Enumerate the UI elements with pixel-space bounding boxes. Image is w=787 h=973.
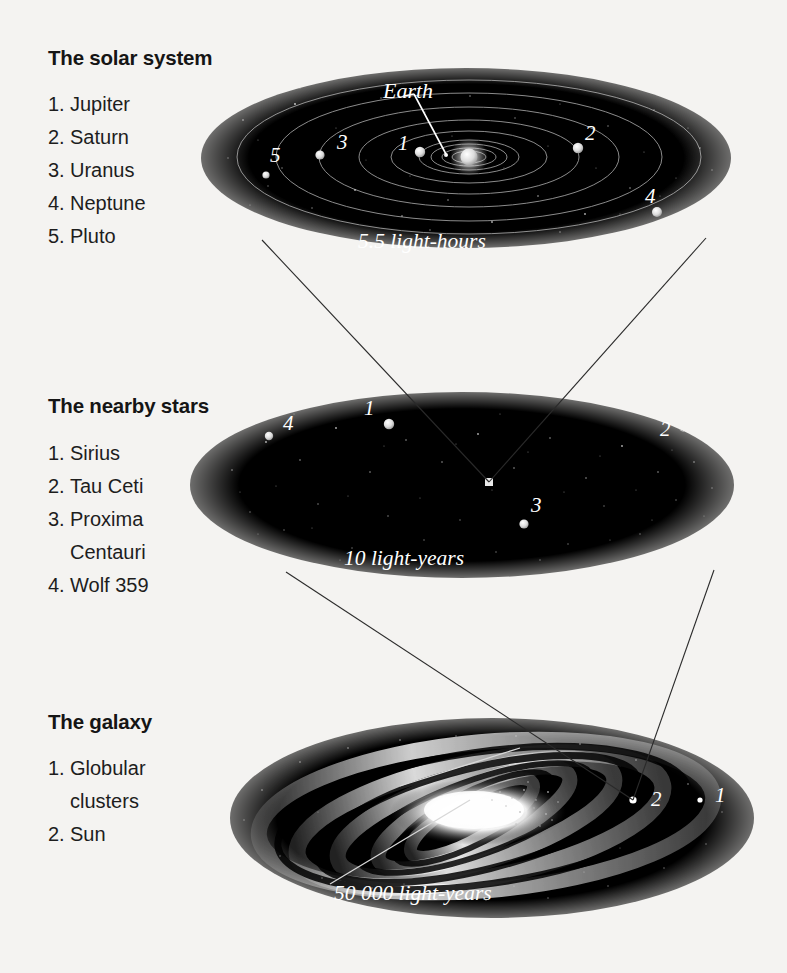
nearby-stars-scale-label: 10 light-years (344, 546, 464, 570)
panel-title-nearby-stars: The nearby stars (48, 394, 209, 418)
panel-title-solar-system: The solar system (48, 46, 212, 70)
svg-text:1: 1 (715, 783, 726, 807)
planet-jupiter (415, 147, 425, 157)
list-item: 3. Uranus (48, 154, 146, 187)
legend-number: 5. (48, 220, 70, 253)
legend-number: 1. (48, 437, 70, 470)
legend-label: Neptune (70, 187, 146, 220)
legend-label: Sirius (70, 437, 120, 470)
legend-label: Saturn (70, 121, 129, 154)
panel-nearby-stars-art: 1 4 2 3 10 light-years (190, 392, 734, 578)
planet-pluto (262, 171, 269, 178)
list-item: 2. Tau Ceti (48, 470, 149, 503)
svg-text:2: 2 (660, 417, 671, 441)
svg-text:3: 3 (336, 130, 348, 154)
legend-number: 1. (48, 752, 70, 785)
solar-system-scale-label: 5.5 light-hours (358, 229, 486, 253)
star-proxima-centauri (519, 519, 528, 528)
legend-label: Tau Ceti (70, 470, 143, 503)
list-item: 5. Pluto (48, 220, 146, 253)
panel-galaxy-art: 2 1 50 000 light-years (230, 718, 754, 918)
svg-text:4: 4 (645, 184, 656, 208)
legend-number: 2. (48, 470, 70, 503)
legend-number: 4. (48, 569, 70, 602)
svg-text:1: 1 (398, 131, 409, 155)
legend-number: 3. (48, 503, 70, 536)
planet-saturn (573, 143, 583, 153)
earth-label: Earth (382, 78, 433, 103)
list-item: 2. Sun (48, 818, 146, 851)
star-wolf-359 (265, 432, 273, 440)
list-item: 2. Saturn (48, 121, 146, 154)
legend-label-continuation: Centauri (48, 536, 149, 569)
panel-title-galaxy: The galaxy (48, 710, 152, 734)
planet-neptune (652, 207, 662, 217)
star-tau-ceti (679, 422, 689, 432)
galaxy-scale-label: 50 000 light-years (334, 881, 492, 905)
legend-label: Uranus (70, 154, 134, 187)
legend-label: Pluto (70, 220, 116, 253)
sun-sphere (461, 149, 478, 166)
diagram-canvas: 5 3 1 2 4 Earth 5.5 light-hours (0, 0, 787, 973)
svg-text:3: 3 (530, 493, 542, 517)
legend-galaxy: 1. Globular clusters 2. Sun (48, 752, 146, 851)
panel-solar-system-art: 5 3 1 2 4 Earth 5.5 light-hours (201, 68, 731, 253)
planet-uranus (315, 150, 324, 159)
list-item: 1. Sirius (48, 437, 149, 470)
star-sirius (384, 419, 394, 429)
svg-text:5: 5 (270, 143, 281, 167)
legend-number: 1. (48, 88, 70, 121)
list-item: 4. Neptune (48, 187, 146, 220)
legend-label: Proxima (70, 503, 143, 536)
svg-text:2: 2 (651, 787, 662, 811)
legend-number: 4. (48, 187, 70, 220)
legend-number: 3. (48, 154, 70, 187)
legend-solar-system: 1. Jupiter 2. Saturn 3. Uranus 4. Neptun… (48, 88, 146, 253)
legend-label: Globular (70, 752, 146, 785)
svg-text:1: 1 (364, 396, 375, 420)
legend-label: Wolf 359 (70, 569, 149, 602)
legend-number: 2. (48, 818, 70, 851)
legend-label-continuation: clusters (48, 785, 146, 818)
legend-number: 2. (48, 121, 70, 154)
svg-text:4: 4 (283, 411, 294, 435)
svg-text:2: 2 (585, 121, 596, 145)
legend-label: Jupiter (70, 88, 130, 121)
list-item: 4. Wolf 359 (48, 569, 149, 602)
legend-nearby-stars: 1. Sirius 2. Tau Ceti 3. Proxima Centaur… (48, 437, 149, 602)
list-item: 3. Proxima (48, 503, 149, 536)
list-item: 1. Jupiter (48, 88, 146, 121)
list-item: 1. Globular (48, 752, 146, 785)
legend-label: Sun (70, 818, 106, 851)
globular-cluster-marker (697, 797, 702, 802)
